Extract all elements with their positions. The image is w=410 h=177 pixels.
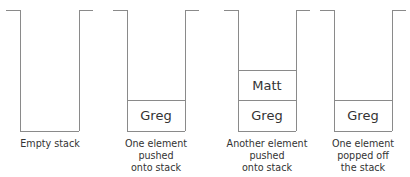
caption-line: pushed [212,150,322,162]
stack-element-greg: Greg [127,100,185,130]
stack-floor [20,131,79,132]
caption-line: popped off [313,150,410,162]
caption-line: the stack [313,162,410,174]
stack-right-wall [185,10,186,131]
stack-floor [238,131,296,132]
caption-line: One element [106,138,206,150]
stack-left-flange [224,10,238,11]
stack-caption: Another element pushed onto stack [212,138,322,174]
stack-floor [127,131,185,132]
stack-floor [334,131,392,132]
stack-right-wall [392,10,393,131]
caption-line: Empty stack [10,138,90,150]
caption-line: One element [313,138,410,150]
stack-right-flange [185,10,199,11]
stack-right-wall [296,10,297,131]
stack-right-wall [79,10,80,131]
stack-right-flange [79,10,93,11]
caption-line: pushed [106,150,206,162]
caption-line: Another element [212,138,322,150]
caption-line: onto stack [106,162,206,174]
stack-caption: One element popped off the stack [313,138,410,174]
stack-left-flange [6,10,20,11]
stack-element-greg: Greg [238,100,296,130]
stack-element-matt: Matt [238,70,296,100]
stack-element-greg: Greg [334,100,392,130]
stack-left-wall [20,10,21,131]
caption-line: onto stack [212,162,322,174]
stack-right-flange [296,10,310,11]
stack-left-flange [113,10,127,11]
stack-caption: One element pushed onto stack [106,138,206,174]
stack-caption: Empty stack [10,138,90,150]
stack-right-flange [392,10,406,11]
stack-left-flange [320,10,334,11]
